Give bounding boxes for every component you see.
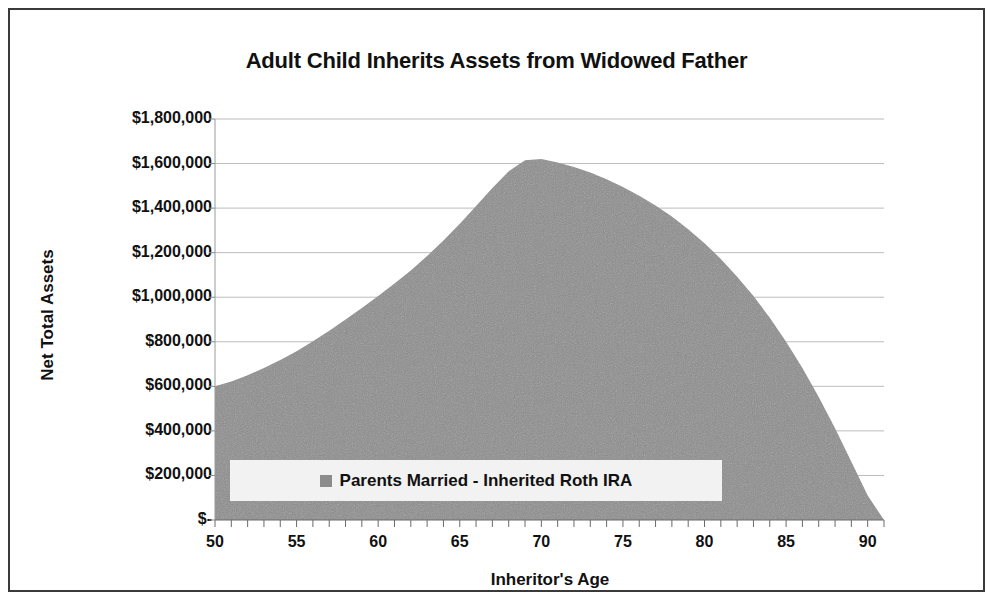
chart-figure-frame: Adult Child Inherits Assets from Widowed… <box>8 8 985 592</box>
x-axis-tick-label: 55 <box>267 534 327 550</box>
x-axis-tick-label: 70 <box>511 534 571 550</box>
x-axis-tick-label: 50 <box>185 534 245 550</box>
legend-label: Parents Married - Inherited Roth IRA <box>340 471 633 491</box>
x-axis-tick-label: 60 <box>348 534 408 550</box>
x-axis-tick-label: 75 <box>593 534 653 550</box>
x-axis-title: Inheritor's Age <box>215 570 885 590</box>
legend-swatch-icon <box>320 475 332 487</box>
chart-legend: Parents Married - Inherited Roth IRA <box>230 460 722 501</box>
x-axis-tick-labels: 505560657075808590 <box>10 10 987 594</box>
x-axis-tick-label: 65 <box>430 534 490 550</box>
x-axis-tick-label: 90 <box>838 534 898 550</box>
x-axis-tick-label: 85 <box>756 534 816 550</box>
x-axis-tick-label: 80 <box>675 534 735 550</box>
